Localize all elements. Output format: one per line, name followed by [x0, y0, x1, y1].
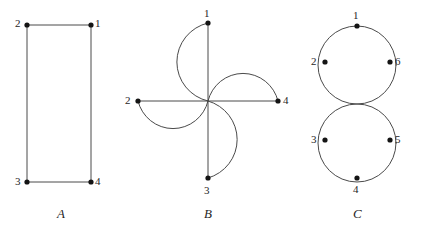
figure-board: 1 2 3 4 A 1 2 3 4 B 1 2 6 3 5 4 C: [0, 0, 425, 231]
figure-b-edge-2-center-arc: [138, 101, 208, 129]
figure-b-vertex-label-3: 3: [204, 185, 210, 196]
figure-a-vertex-3: [24, 179, 29, 184]
figure-b-vertex-2: [135, 98, 140, 103]
figure-c-group: [318, 23, 396, 182]
figure-c-vertex-4: [354, 175, 359, 180]
figure-b-group: [135, 20, 280, 180]
figure-a-group: [24, 22, 93, 184]
figure-c-vertex-6: [387, 59, 392, 64]
figure-b-vertex-4: [275, 98, 280, 103]
figure-c-vertex-label-2: 2: [311, 56, 317, 67]
figure-c-vertex-3: [322, 137, 327, 142]
figure-a-vertex-label-2: 2: [15, 18, 21, 29]
figure-a-vertex-label-3: 3: [15, 176, 21, 187]
figure-b-edge-3-center-arc: [208, 101, 237, 178]
figure-b-vertex-label-2: 2: [125, 95, 131, 106]
figure-a-vertex-2: [24, 22, 29, 27]
figure-a-vertex-4: [88, 179, 93, 184]
figure-b-edge-1-center-arc: [177, 23, 208, 101]
figure-c-vertex-label-6: 6: [395, 56, 401, 67]
figure-c-circle-lower: [318, 104, 396, 182]
figure-b-caption: B: [204, 207, 212, 220]
graph-diagrams-svg: [0, 0, 425, 231]
figure-b-vertex-label-1: 1: [204, 8, 210, 19]
figure-c-caption: C: [353, 207, 362, 220]
figure-a-vertex-1: [88, 22, 93, 27]
figure-c-vertex-label-1: 1: [353, 10, 359, 21]
figure-b-vertex-1: [205, 20, 210, 25]
figure-c-vertex-2: [322, 59, 327, 64]
figure-a-caption: A: [57, 207, 65, 220]
figure-b-vertex-3: [205, 175, 210, 180]
figure-c-circle-upper: [318, 26, 396, 104]
figure-c-vertex-label-5: 5: [395, 134, 401, 145]
figure-b-vertex-label-4: 4: [283, 95, 289, 106]
figure-c-vertex-label-3: 3: [311, 134, 317, 145]
figure-c-vertex-5: [387, 137, 392, 142]
figure-c-vertex-1: [354, 23, 359, 28]
figure-b-edge-4-center-arc: [208, 73, 278, 101]
figure-a-vertex-label-1: 1: [95, 18, 101, 29]
figure-a-vertex-label-4: 4: [95, 176, 101, 187]
figure-c-vertex-label-4: 4: [353, 184, 359, 195]
